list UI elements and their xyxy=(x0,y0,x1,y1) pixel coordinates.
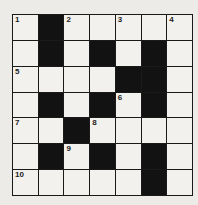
answer-cell[interactable] xyxy=(39,118,64,143)
answer-cell[interactable]: 8 xyxy=(90,118,115,143)
black-cell xyxy=(142,93,167,118)
answer-cell[interactable] xyxy=(167,93,192,118)
black-cell xyxy=(90,144,115,169)
answer-cell[interactable]: 7 xyxy=(13,118,38,143)
clue-number: 6 xyxy=(118,94,122,102)
black-cell xyxy=(90,93,115,118)
clue-number: 4 xyxy=(169,16,173,24)
answer-cell[interactable] xyxy=(39,67,64,92)
clue-number: 9 xyxy=(66,145,70,153)
answer-cell[interactable] xyxy=(167,67,192,92)
black-cell xyxy=(90,41,115,66)
black-cell xyxy=(39,93,64,118)
answer-cell[interactable] xyxy=(64,41,89,66)
black-cell xyxy=(142,170,167,195)
answer-cell[interactable]: 5 xyxy=(13,67,38,92)
answer-cell[interactable]: 1 xyxy=(13,15,38,40)
answer-cell[interactable] xyxy=(167,118,192,143)
answer-cell[interactable] xyxy=(116,118,141,143)
answer-cell[interactable] xyxy=(116,170,141,195)
answer-cell[interactable] xyxy=(142,15,167,40)
answer-cell[interactable] xyxy=(90,67,115,92)
answer-cell[interactable] xyxy=(13,41,38,66)
black-cell xyxy=(39,41,64,66)
answer-cell[interactable] xyxy=(142,118,167,143)
answer-cell[interactable] xyxy=(90,170,115,195)
black-cell xyxy=(142,41,167,66)
clue-number: 2 xyxy=(66,16,70,24)
clue-number: 1 xyxy=(15,16,19,24)
black-cell xyxy=(116,67,141,92)
clue-number: 8 xyxy=(92,119,96,127)
clue-number: 7 xyxy=(15,119,19,127)
answer-cell[interactable] xyxy=(64,170,89,195)
black-cell xyxy=(142,67,167,92)
answer-cell[interactable]: 6 xyxy=(116,93,141,118)
answer-cell[interactable]: 10 xyxy=(13,170,38,195)
answer-cell[interactable] xyxy=(167,144,192,169)
black-cell xyxy=(39,15,64,40)
clue-number: 10 xyxy=(15,171,24,179)
answer-cell[interactable] xyxy=(116,41,141,66)
black-cell xyxy=(39,144,64,169)
black-cell xyxy=(64,118,89,143)
answer-cell[interactable]: 9 xyxy=(64,144,89,169)
clue-number: 3 xyxy=(118,16,122,24)
answer-cell[interactable] xyxy=(90,15,115,40)
black-cell xyxy=(142,144,167,169)
answer-cell[interactable]: 2 xyxy=(64,15,89,40)
answer-cell[interactable] xyxy=(13,93,38,118)
answer-cell[interactable] xyxy=(13,144,38,169)
answer-cell[interactable]: 3 xyxy=(116,15,141,40)
answer-cell[interactable]: 4 xyxy=(167,15,192,40)
crossword-grid: 12345678910 xyxy=(12,14,193,196)
clue-number: 5 xyxy=(15,68,19,76)
answer-cell[interactable] xyxy=(64,93,89,118)
answer-cell[interactable] xyxy=(116,144,141,169)
answer-cell[interactable] xyxy=(167,170,192,195)
answer-cell[interactable] xyxy=(39,170,64,195)
answer-cell[interactable] xyxy=(167,41,192,66)
answer-cell[interactable] xyxy=(64,67,89,92)
